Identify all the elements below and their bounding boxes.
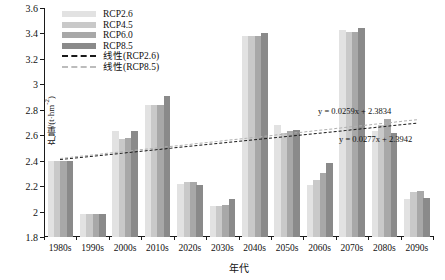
- x-tick-label: 2020s: [179, 243, 202, 253]
- x-tick-label: 2050s: [276, 243, 299, 253]
- bar-RCP8-5-2050s: [293, 130, 300, 237]
- legend-label: RCP8.5: [103, 41, 133, 51]
- y-tick-label: 2: [33, 206, 38, 217]
- chart-legend: RCP2.6RCP4.5RCP6.0RCP8.5线性(RCP2.6)线性(RCP…: [62, 9, 159, 73]
- y-tick-label: 3.6: [26, 3, 39, 14]
- x-tick-label: 2010s: [146, 243, 169, 253]
- y-tick-mark: [40, 161, 44, 162]
- y-axis-title: 产量/(t·hm-2): [43, 96, 57, 145]
- legend-label: RCP6.0: [103, 30, 133, 40]
- legend-swatch: [62, 43, 96, 49]
- trendline-equation-label: y = 0.0259x + 2.3834: [318, 106, 391, 116]
- x-tick-mark: [368, 236, 369, 240]
- x-tick-mark: [141, 236, 142, 240]
- y-tick-mark: [40, 33, 44, 34]
- x-tick-mark: [239, 236, 240, 240]
- legend-item: RCP8.5: [62, 41, 159, 51]
- bar-RCP8-5-2090s: [423, 198, 430, 237]
- x-tick-mark: [174, 236, 175, 240]
- y-tick-label: 2.4: [26, 155, 39, 166]
- x-tick-label: 2060s: [308, 243, 331, 253]
- chart-container: 1.822.22.42.62.833.23.43.6 1980s1990s200…: [0, 0, 445, 280]
- legend-label: RCP2.6: [103, 9, 133, 19]
- y-tick-label: 2.6: [26, 130, 39, 141]
- trendline-equation-label: y = 0.0277x + 2.3942: [339, 134, 412, 144]
- legend-dash-icon: [62, 66, 96, 68]
- legend-item: 线性(RCP2.6): [62, 51, 159, 61]
- bar-RCP8-5-2070s: [358, 28, 365, 237]
- x-tick-label: 1980s: [49, 243, 72, 253]
- legend-item: RCP2.6: [62, 9, 159, 19]
- x-tick-mark: [206, 236, 207, 240]
- legend-swatch: [62, 11, 96, 17]
- legend-item: RCP6.0: [62, 30, 159, 40]
- bar-RCP8-5-1990s: [99, 214, 106, 237]
- bar-RCP8-5-1980s: [67, 161, 74, 237]
- bar-RCP8-5-2080s: [391, 133, 398, 237]
- bar-RCP8-5-2010s: [164, 96, 171, 237]
- y-tick-label: 2.2: [26, 181, 39, 192]
- x-tick-mark: [44, 236, 45, 240]
- x-tick-label: 2070s: [341, 243, 364, 253]
- legend-item: 线性(RCP8.5): [62, 62, 159, 72]
- x-tick-mark: [336, 236, 337, 240]
- legend-dash-icon: [62, 55, 96, 57]
- bar-RCP8-5-2060s: [326, 163, 333, 237]
- legend-label: 线性(RCP8.5): [103, 62, 159, 72]
- legend-label: 线性(RCP2.6): [103, 51, 159, 61]
- x-tick-mark: [76, 236, 77, 240]
- bar-RCP8-5-2020s: [196, 185, 203, 237]
- y-tick-mark: [40, 212, 44, 213]
- x-tick-label: 2090s: [405, 243, 428, 253]
- x-tick-mark: [433, 236, 434, 240]
- y-tick-label: 3.4: [26, 28, 39, 39]
- legend-label: RCP4.5: [103, 20, 133, 30]
- y-tick-mark: [40, 8, 44, 9]
- bar-RCP8-5-2030s: [229, 199, 236, 237]
- x-axis-title: 年代: [44, 260, 433, 275]
- x-tick-mark: [401, 236, 402, 240]
- y-tick-label: 3.2: [26, 53, 39, 64]
- y-tick-mark: [40, 84, 44, 85]
- x-tick-label: 2000s: [114, 243, 137, 253]
- legend-swatch: [62, 32, 96, 38]
- bar-RCP8-5-2000s: [131, 131, 138, 237]
- x-tick-label: 2040s: [243, 243, 266, 253]
- legend-swatch: [62, 22, 96, 28]
- x-tick-label: 2080s: [373, 243, 396, 253]
- x-tick-mark: [271, 236, 272, 240]
- x-tick-label: 2030s: [211, 243, 234, 253]
- y-tick-label: 1.8: [26, 232, 39, 243]
- legend-item: RCP4.5: [62, 20, 159, 30]
- y-tick-label: 3: [33, 79, 38, 90]
- y-tick-label: 2.8: [26, 104, 39, 115]
- x-tick-mark: [109, 236, 110, 240]
- x-tick-label: 1990s: [81, 243, 104, 253]
- y-tick-mark: [40, 59, 44, 60]
- x-tick-mark: [303, 236, 304, 240]
- y-tick-mark: [40, 186, 44, 187]
